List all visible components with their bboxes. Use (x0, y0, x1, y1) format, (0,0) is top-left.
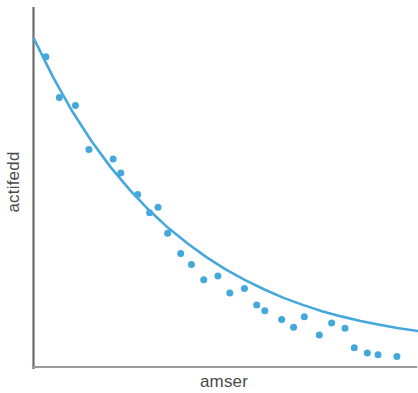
data-point (72, 102, 79, 109)
data-point (146, 209, 153, 216)
data-point (134, 191, 141, 198)
data-point (342, 325, 349, 332)
data-point (42, 53, 49, 60)
data-point (364, 350, 371, 357)
data-point (278, 316, 285, 323)
data-point (241, 285, 248, 292)
data-point (214, 272, 221, 279)
data-point (316, 331, 323, 338)
data-point (301, 313, 308, 320)
data-point (328, 320, 335, 327)
scatter-points-group (42, 53, 400, 360)
data-point (164, 230, 171, 237)
data-point (188, 261, 195, 268)
data-point (177, 250, 184, 257)
data-point (375, 351, 382, 358)
data-point (261, 307, 268, 314)
scatter-plot-canvas (0, 0, 418, 393)
y-axis-label: actifedd (4, 146, 24, 218)
fitted-curve-group (34, 39, 418, 331)
x-axis-label: amser (33, 372, 415, 392)
data-point (226, 290, 233, 297)
data-point (393, 353, 400, 360)
data-point (85, 146, 92, 153)
axes-group (33, 8, 416, 368)
data-point (155, 204, 162, 211)
fitted-curve (34, 39, 418, 331)
data-point (117, 169, 124, 176)
chart-figure: actifedd amser (0, 0, 418, 393)
data-point (110, 156, 117, 163)
data-point (290, 324, 297, 331)
data-point (56, 94, 63, 101)
data-point (253, 301, 260, 308)
data-point (351, 344, 358, 351)
data-point (200, 276, 207, 283)
